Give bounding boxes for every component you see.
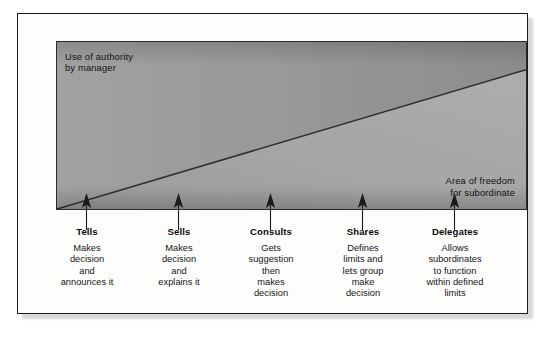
style-title-consults: Consults	[223, 226, 319, 238]
style-description-consults: Gets suggestion then makes decision	[223, 243, 319, 299]
style-title-shares: Shares	[315, 226, 411, 238]
style-description-shares: Defines limits and lets group make decis…	[315, 243, 411, 299]
style-description-delegates: Allows subordinates to function within d…	[407, 243, 503, 299]
style-description-sells: Makes decision and explains it	[131, 243, 227, 288]
style-title-tells: Tells	[39, 226, 135, 238]
freedom-label: Area of freedom for subordinate	[446, 176, 515, 199]
continuum-block: Use of authority by manager Area of free…	[56, 41, 527, 210]
figure-frame: Use of authority by manager Area of free…	[17, 13, 528, 314]
scanned-page: Use of authority by manager Area of free…	[0, 0, 552, 338]
authority-label: Use of authority by manager	[65, 52, 133, 75]
style-column-sells: Sells Makes decision and explains it	[131, 226, 227, 288]
style-title-sells: Sells	[131, 226, 227, 238]
style-column-delegates: Delegates Allows subordinates to functio…	[407, 226, 503, 299]
style-title-delegates: Delegates	[407, 226, 503, 238]
leadership-styles-row: Tells Makes decision and announces it Se…	[19, 226, 528, 314]
style-description-tells: Makes decision and announces it	[39, 243, 135, 288]
style-column-shares: Shares Defines limits and lets group mak…	[315, 226, 411, 299]
style-column-tells: Tells Makes decision and announces it	[39, 226, 135, 288]
style-column-consults: Consults Gets suggestion then makes deci…	[223, 226, 319, 299]
